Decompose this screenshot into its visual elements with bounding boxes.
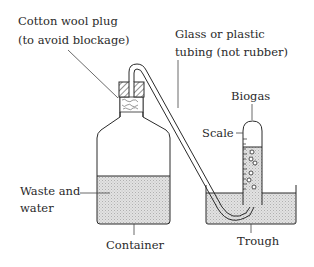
label-scale: Scale — [202, 126, 234, 140]
label-cotton-wool-line1: Cotton wool plug — [18, 14, 118, 28]
label-biogas: Biogas — [231, 89, 270, 103]
label-cotton-wool-line2: (to avoid blockage) — [18, 33, 130, 47]
waste-liquid — [97, 176, 170, 224]
label-trough: Trough — [237, 234, 280, 248]
cotton-wool-plug — [120, 97, 143, 112]
label-tubing-line2: tubing (not rubber) — [175, 45, 288, 59]
label-container: Container — [106, 238, 164, 252]
label-waste-line1: Waste and — [20, 184, 81, 198]
label-tubing-line1: Glass or plastic — [175, 27, 265, 41]
label-waste-line2: water — [20, 201, 54, 215]
biogas-apparatus-diagram: Cotton wool plug (to avoid blockage) Gla… — [0, 0, 314, 267]
collection-tube — [243, 121, 262, 205]
stopper — [119, 82, 144, 97]
